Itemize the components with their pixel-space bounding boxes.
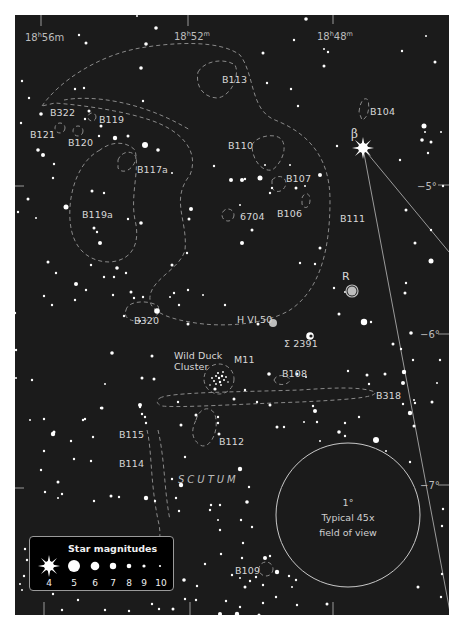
label-wild-duck: Wild Duck xyxy=(174,351,222,361)
label-B112: B112 xyxy=(219,437,244,447)
outline-B106 xyxy=(302,194,310,208)
legend-mag-9: 9 xyxy=(136,578,152,588)
ra-label-18h52m: 18h52m xyxy=(174,31,210,42)
legend-mag-6: 6 xyxy=(87,578,103,588)
label-B322: B322 xyxy=(50,108,75,118)
label-B120: B120 xyxy=(68,138,93,148)
label-B108: B108 xyxy=(282,369,307,379)
mag4-starburst-icon xyxy=(38,555,60,577)
outline-B117a xyxy=(118,152,136,171)
constellation-label: SCUTUM xyxy=(178,474,239,485)
label-B117a: B117a xyxy=(137,165,168,175)
outline-B107 xyxy=(272,177,286,192)
outline-B318 xyxy=(157,388,375,407)
mag8-dot-icon xyxy=(127,564,132,569)
legend-mag-4: 4 xyxy=(41,578,57,588)
M11-cluster xyxy=(209,371,229,391)
dec-label-minus6: −6° xyxy=(420,330,440,340)
fov-typical: Typical 45x xyxy=(288,510,408,525)
legend-mag-10: 10 xyxy=(153,578,169,588)
fov-field: field of view xyxy=(288,525,408,540)
mag5-dot-icon xyxy=(68,560,80,572)
label-B114: B114 xyxy=(119,459,144,469)
label-B115: B115 xyxy=(119,430,144,440)
label-M11: M11 xyxy=(234,355,255,365)
label-B113: B113 xyxy=(222,75,247,85)
star-magnitude-legend: Star magnitudes 4 5 6 7 8 9 10 xyxy=(29,536,174,591)
ra-label-18h48m: 18h48m xyxy=(317,31,353,42)
fov-caption: 1° Typical 45x field of view xyxy=(288,495,408,540)
label-B119: B119 xyxy=(99,115,124,125)
legend-mag-8: 8 xyxy=(121,578,137,588)
label-B119a: B119a xyxy=(82,210,113,220)
dec-label-minus7: −7° xyxy=(420,481,440,491)
mag7-dot-icon xyxy=(110,563,116,569)
label-B111: B111 xyxy=(340,214,365,224)
outline-B109 xyxy=(259,562,273,576)
outline-B119a xyxy=(70,143,137,262)
pointer-lines xyxy=(363,148,449,612)
label-B106: B106 xyxy=(277,209,302,219)
label-NGC6704: 6704 xyxy=(240,212,265,222)
label-cluster: Cluster xyxy=(174,362,208,372)
fov-degree: 1° xyxy=(288,495,408,510)
legend-mag-5: 5 xyxy=(66,578,82,588)
label-R: R xyxy=(342,271,350,282)
dec-label-minus5: −5° xyxy=(417,182,437,192)
ra-label-18h56m: 18h56m xyxy=(25,32,64,43)
outline-B104 xyxy=(359,99,369,120)
label-STF2391: Σ 2391 xyxy=(284,339,318,349)
label-B318: B318 xyxy=(376,391,401,401)
label-B110: B110 xyxy=(228,141,253,151)
mag6-dot-icon xyxy=(91,562,100,571)
star-chart: 18h56m 18h52m 18h48m −5° −6° −7° SCUTUM … xyxy=(15,15,449,615)
label-B107: B107 xyxy=(286,174,311,184)
label-B109: B109 xyxy=(235,566,260,576)
label-B121: B121 xyxy=(30,130,55,140)
mag9-dot-icon xyxy=(142,564,145,567)
label-HVI50: H VI 50 xyxy=(237,315,272,325)
outline-NGC6704 xyxy=(222,209,234,221)
legend-mag-7: 7 xyxy=(105,578,121,588)
outline-B111 xyxy=(42,44,330,325)
label-beta: β xyxy=(351,127,358,141)
label-B320: B320 xyxy=(134,316,159,326)
outline-B110 xyxy=(252,136,284,171)
mag10-dot-icon xyxy=(159,565,161,567)
label-B104: B104 xyxy=(370,107,395,117)
